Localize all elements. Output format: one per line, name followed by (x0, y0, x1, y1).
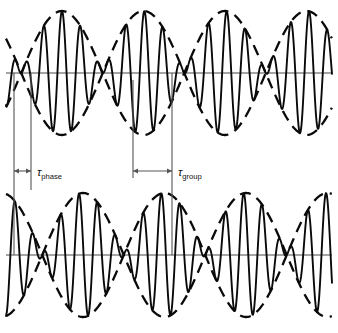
tau-phase-dimension (14, 169, 31, 174)
tau-group-dimension (133, 169, 172, 174)
tau-group-label: τgroup (178, 166, 202, 181)
upper-carrier-wave (6, 11, 332, 133)
figure-root: τphase τgroup (0, 0, 338, 333)
tau-group-arrowhead (133, 169, 138, 174)
tau-group-arrowhead (167, 169, 172, 174)
lower-waveform-panel (6, 193, 332, 317)
tau-phase-arrowhead (26, 169, 31, 174)
upper-waveform-panel (6, 11, 332, 135)
tau-phase-arrowhead (14, 169, 19, 174)
tau-phase-label: τphase (37, 166, 62, 181)
figure-canvas: τphase τgroup (0, 0, 338, 333)
marker-lines-group (14, 73, 172, 255)
